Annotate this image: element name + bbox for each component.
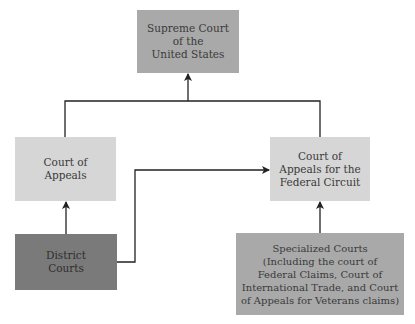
court-of-appeals-node: Court of Appeals [15, 137, 116, 201]
district-courts-label: District Courts [46, 249, 86, 275]
federal-circuit-label: Court of Appeals for the Federal Circuit [279, 150, 360, 189]
supreme-court-node: Supreme Court of the United States [137, 10, 239, 73]
court-of-appeals-label: Court of Appeals [44, 156, 88, 182]
federal-circuit-node: Court of Appeals for the Federal Circuit [270, 137, 370, 201]
supreme-court-label: Supreme Court of the United States [147, 22, 229, 61]
specialized-courts-label: Specialized Courts (Including the court … [241, 242, 399, 307]
edge-appeals-to-supreme [65, 101, 320, 137]
specialized-courts-node: Specialized Courts (Including the court … [236, 233, 404, 315]
district-courts-node: District Courts [15, 234, 117, 290]
